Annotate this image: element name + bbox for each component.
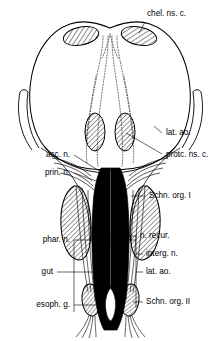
- cheliceral-ganglion-left: [62, 23, 101, 48]
- label-lateral-aorta-upper: lat. ao.: [166, 128, 191, 137]
- schneider-organ-i-left: [61, 186, 91, 260]
- protocerebral-ganglion-right: [115, 113, 135, 151]
- lateral-aorta-right: [182, 90, 203, 150]
- lateral-aorta-left: [19, 90, 40, 150]
- anatomical-figure: chel. ns. c. lat. ao. protc. ns. c. acc.…: [0, 0, 221, 341]
- figure-canvas: chel. ns. c. lat. ao. protc. ns. c. acc.…: [0, 0, 221, 341]
- label-gut: gut: [42, 267, 54, 276]
- label-schneider-organ-ii: Schn. org. II: [146, 297, 190, 306]
- protocerebral-ganglion-left: [85, 113, 105, 151]
- label-principal-nerve: prin. n.: [45, 168, 70, 177]
- label-lateral-aorta-lower: lat. ao.: [146, 267, 171, 276]
- label-schneider-organ-i: Schn. org. I: [149, 191, 191, 200]
- cheliceral-ganglion-right: [120, 23, 159, 48]
- label-cheliceral-nerve-cord: chel. ns. c.: [147, 9, 186, 18]
- label-pharyngeal-nerve: phar. n.: [43, 235, 70, 244]
- label-interganglionic-nerve: interg. n.: [146, 249, 178, 258]
- label-recurrent-nerve: n. recur.: [140, 231, 170, 240]
- label-accessory-nerve: acc. n.: [46, 150, 70, 159]
- label-protocerebral-nerve-cord: protc. ns. c.: [166, 150, 208, 159]
- label-esophageal-ganglion: esoph. g.: [36, 300, 70, 309]
